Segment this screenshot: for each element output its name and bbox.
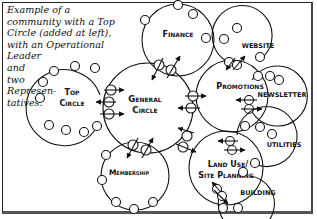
membership-label: Membership	[109, 168, 150, 177]
promotions-label: Promotions	[216, 82, 263, 91]
finance-label: Finance	[163, 30, 194, 39]
newsletter-label: NEWSLETTER	[258, 91, 307, 99]
utilities-label: UTILITIES	[267, 141, 302, 149]
general-circle-label-2: Circle	[132, 105, 157, 115]
newsletter-circle: NEWSLETTER	[236, 66, 307, 126]
top-circle-label-1: Top	[65, 88, 81, 97]
membership-circle: Membership	[98, 138, 170, 214]
website-circle: WEBSITE	[212, 6, 274, 70]
sociocracy-circles-diagram: Top Circle General Circle Finance Promot…	[0, 0, 317, 219]
top-circle-label-2: Circle	[59, 99, 84, 108]
top-circle: Top Circle	[26, 62, 101, 146]
utilities-circle: UTILITIES	[218, 106, 302, 167]
finance-circle: Finance	[141, 1, 215, 81]
general-circle-label-1: General	[128, 94, 161, 104]
website-label: WEBSITE	[242, 42, 275, 50]
building-label: BUILDING	[240, 189, 275, 197]
top-general-links	[96, 85, 124, 119]
